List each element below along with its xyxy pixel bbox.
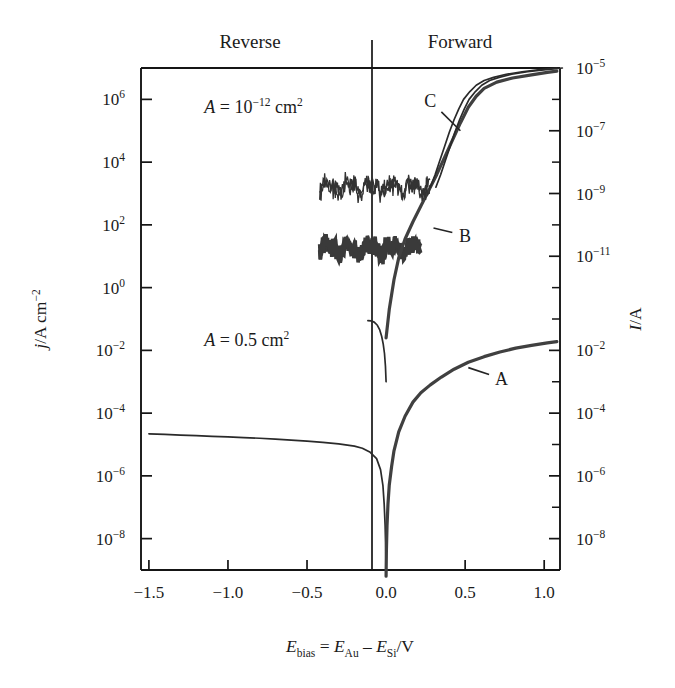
left-tick-label: 10−6 bbox=[96, 465, 125, 486]
left-tick-label: 106 bbox=[102, 88, 125, 109]
curve-label-C: C bbox=[424, 91, 436, 111]
region-label-forward: Forward bbox=[428, 31, 493, 52]
right-tick-label: 10−11 bbox=[576, 245, 611, 266]
left-tick-label: 104 bbox=[102, 151, 125, 172]
left-tick-label: 100 bbox=[102, 277, 125, 298]
region-label-reverse: Reverse bbox=[219, 31, 280, 52]
curve-path bbox=[368, 321, 386, 382]
x-tick-label: 0.0 bbox=[375, 583, 396, 602]
left-tick-label: 10−2 bbox=[96, 339, 125, 360]
left-tick-label: 102 bbox=[102, 214, 125, 235]
leader-line-B bbox=[434, 228, 453, 232]
left-tick-label: 10−4 bbox=[96, 402, 125, 423]
series-B-reverse-hook bbox=[368, 321, 386, 382]
left-axis-ticks bbox=[141, 99, 152, 538]
x-tick-label: 0.5 bbox=[455, 583, 476, 602]
plot-frame bbox=[141, 40, 560, 570]
series-B bbox=[320, 71, 557, 338]
noise-band bbox=[320, 173, 430, 202]
x-tick-label: −1.5 bbox=[133, 583, 164, 602]
annotation-area-1: A = 10−12 cm2 bbox=[203, 96, 303, 117]
y-axis-right-title: I/A bbox=[625, 307, 645, 332]
curve-path bbox=[430, 68, 556, 187]
x-tick-label: −1.0 bbox=[213, 583, 244, 602]
right-tick-label: 10−2 bbox=[576, 339, 605, 360]
right-tick-label: 10−5 bbox=[576, 57, 605, 78]
right-axis-tick-labels: 10−510−710−910−1110−210−410−610−8 bbox=[576, 57, 611, 549]
curve-path-forward bbox=[386, 342, 557, 577]
y-axis-left-title: j/A cm−2 bbox=[30, 289, 50, 351]
area-annotations: A = 10−12 cm2A = 0.5 cm2 bbox=[203, 96, 303, 349]
svg-text:I/A: I/A bbox=[625, 307, 645, 332]
left-tick-label: 10−8 bbox=[96, 528, 125, 549]
svg-text:j/A cm−2: j/A cm−2 bbox=[30, 289, 50, 351]
data-curves bbox=[149, 68, 562, 576]
curve-path bbox=[149, 434, 386, 576]
curve-path bbox=[386, 71, 557, 338]
x-axis-tick-labels: −1.5−1.0−0.50.00.51.0 bbox=[133, 583, 554, 602]
right-tick-label: 10−7 bbox=[576, 120, 605, 141]
x-tick-label: 1.0 bbox=[534, 583, 555, 602]
region-labels: Reverse Forward bbox=[219, 31, 492, 52]
curve-label-B: B bbox=[459, 226, 471, 246]
x-axis-title: Ebias = EAu – ESi/V bbox=[285, 636, 414, 659]
x-axis-ticks bbox=[149, 560, 544, 570]
curve-callouts: ABC bbox=[424, 91, 508, 389]
annotation-area-2: A = 0.5 cm2 bbox=[203, 329, 289, 350]
left-axis-tick-labels: 10610410210010−210−410−610−8 bbox=[96, 88, 126, 548]
right-tick-label: 10−4 bbox=[576, 402, 605, 423]
right-tick-label: 10−8 bbox=[576, 528, 605, 549]
curve-label-A: A bbox=[495, 369, 508, 389]
right-tick-label: 10−9 bbox=[576, 183, 605, 204]
iv-characteristic-chart: Reverse Forward 10610410210010−210−410−6… bbox=[0, 0, 675, 688]
x-tick-label: −0.5 bbox=[292, 583, 323, 602]
right-tick-label: 10−6 bbox=[576, 465, 605, 486]
figure-root: Reverse Forward 10610410210010−210−410−6… bbox=[0, 0, 675, 688]
leader-line-A bbox=[468, 368, 489, 375]
right-axis-ticks bbox=[549, 68, 560, 570]
curve-path-c-second-sweep bbox=[436, 68, 562, 187]
